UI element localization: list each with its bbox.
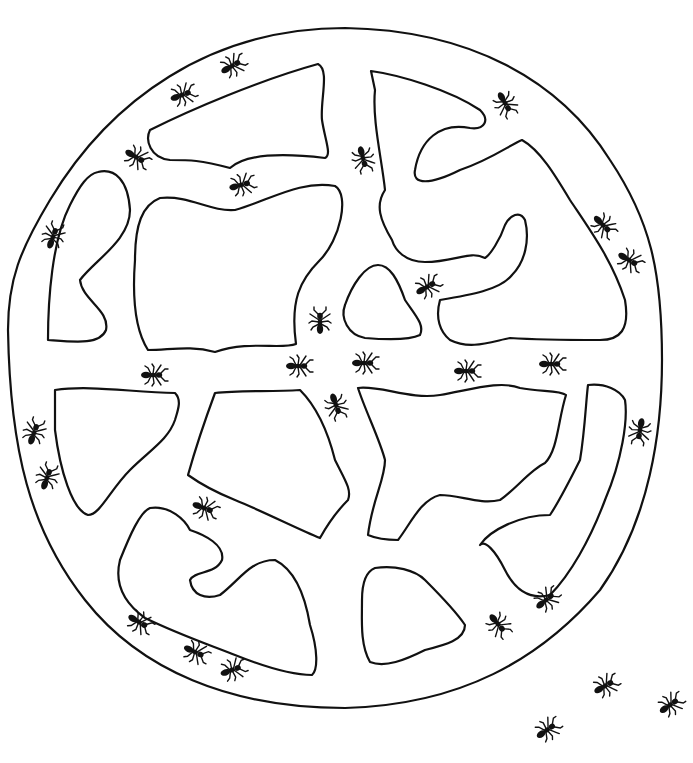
chamber-left-tall bbox=[48, 171, 130, 341]
ant-icon bbox=[141, 364, 168, 386]
ant-icon bbox=[613, 244, 647, 277]
chamber-mid-left bbox=[55, 388, 179, 515]
ant-icon bbox=[189, 494, 222, 524]
ant-icon bbox=[349, 144, 377, 176]
ant-icon bbox=[167, 80, 200, 110]
ant-icon bbox=[20, 415, 50, 448]
ant-icon bbox=[33, 460, 63, 493]
ant-icon bbox=[352, 352, 379, 374]
ant-icon bbox=[654, 687, 689, 721]
ant-nest-drawing bbox=[0, 0, 693, 763]
ants-group bbox=[20, 49, 689, 746]
ant-icon bbox=[587, 209, 622, 244]
ant-icon bbox=[530, 582, 565, 616]
ant-icon bbox=[322, 390, 352, 423]
ant-icon bbox=[227, 170, 259, 198]
chamber-bottom-left bbox=[118, 508, 316, 675]
ant-icon bbox=[531, 712, 566, 746]
ant-icon bbox=[123, 606, 157, 639]
ant-icon bbox=[589, 669, 623, 702]
ant-icon bbox=[179, 637, 213, 668]
chamber-top-right bbox=[371, 71, 626, 345]
ant-icon bbox=[39, 219, 69, 252]
ant-icon bbox=[454, 360, 481, 382]
ant-icon bbox=[411, 270, 445, 303]
chamber-center-small bbox=[344, 265, 422, 339]
ant-icon bbox=[489, 87, 522, 121]
chamber-right-curve bbox=[480, 385, 626, 597]
ant-icon bbox=[539, 353, 566, 375]
nest-outer-wall bbox=[8, 28, 662, 708]
ant-icon bbox=[309, 307, 331, 334]
ant-icon bbox=[286, 355, 313, 377]
ant-icon bbox=[216, 49, 250, 82]
chamber-top-left bbox=[148, 64, 328, 168]
ant-icon bbox=[627, 416, 653, 446]
chamber-bottom-center bbox=[362, 567, 465, 664]
chamber-center-big bbox=[134, 185, 342, 352]
ant-icon bbox=[482, 608, 516, 643]
